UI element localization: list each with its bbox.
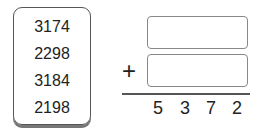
sum-digit: 2 [232,98,242,119]
sum-digit: 5 [153,98,163,119]
addend-2-input[interactable] [147,54,248,87]
addend-1-input[interactable] [147,16,248,49]
number-choices-box: 3174 2298 3184 2198 [13,7,91,125]
number-choice: 3174 [14,18,90,36]
number-choice: 2198 [14,99,90,117]
plus-sign: + [122,59,136,83]
number-choice: 3184 [14,72,90,90]
number-choice: 2298 [14,45,90,63]
sum-line [122,93,250,95]
sum-digit: 7 [206,98,216,119]
sum-digit: 3 [180,98,190,119]
